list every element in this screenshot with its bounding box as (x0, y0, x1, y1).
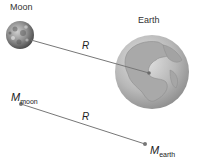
earth-label: Earth (138, 15, 160, 25)
moon-mass-subscript: moon (20, 98, 38, 105)
moon-mass-label: Mmoon (11, 87, 38, 105)
bottom-distance-line (21, 104, 145, 144)
earth-mass-label: Mearth (150, 140, 175, 158)
bottom-distance-label: R (82, 111, 89, 122)
moon-mass-symbol: M (11, 91, 20, 103)
moon-label: Moon (10, 2, 33, 12)
earth-mass-symbol: M (150, 144, 159, 156)
top-distance-label: R (82, 40, 89, 51)
diagram-canvas (0, 0, 197, 161)
earth-center-point (147, 71, 151, 75)
moon-sphere (6, 21, 34, 49)
earth-mass-point (143, 142, 147, 146)
earth-sphere (115, 35, 189, 109)
earth-mass-subscript: earth (159, 151, 175, 158)
